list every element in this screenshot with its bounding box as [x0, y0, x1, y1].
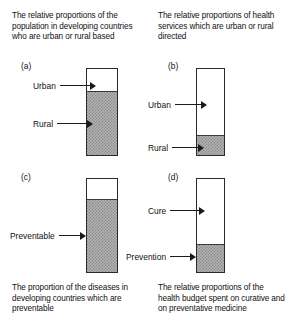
arrow-right-icon: [190, 253, 196, 261]
arrow-right-icon: [201, 101, 207, 109]
pointer-label-urban-a: Urban: [33, 80, 96, 91]
pointer-text: Rural: [33, 119, 53, 129]
pointer-text: Rural: [148, 143, 168, 153]
panel-letter-a: (a): [21, 61, 31, 71]
leader-line-icon: [175, 104, 201, 105]
bar-segment-preventable-c: [87, 199, 117, 272]
caption-panel-a: The relative proportions of the populati…: [12, 11, 140, 43]
arrow-right-icon: [90, 82, 96, 90]
caption-panel-b: The relative proportions of health servi…: [158, 11, 286, 43]
bar-segment-prevention-d: [197, 244, 224, 272]
arrow-right-icon: [198, 144, 204, 152]
leader-line-icon: [172, 147, 198, 148]
pointer-text: Urban: [148, 100, 171, 110]
leader-line-icon: [170, 210, 199, 211]
pointer-text: Prevention: [126, 252, 166, 262]
pointer-label-rural-a: Rural: [33, 118, 93, 129]
leader-line-icon: [59, 235, 80, 236]
caption-panel-d: The relative proportions of the health b…: [158, 283, 286, 315]
bar-panel-c: [86, 178, 118, 273]
pointer-label-urban-b: Urban: [148, 99, 207, 110]
panel-letter-b: (b): [168, 61, 178, 71]
panel-letter-d: (d): [168, 172, 178, 182]
pointer-label-rural-b: Rural: [148, 142, 204, 153]
arrow-right-icon: [199, 207, 205, 215]
leader-line-icon: [60, 85, 90, 86]
leader-line-icon: [57, 123, 87, 124]
stacked-bar-figure: The relative proportions of the populati…: [0, 0, 290, 333]
pointer-text: Cure: [148, 206, 166, 216]
panel-letter-c: (c): [21, 172, 31, 182]
leader-line-icon: [170, 256, 190, 257]
pointer-text: Preventable: [10, 231, 55, 241]
arrow-right-icon: [87, 120, 93, 128]
arrow-right-icon: [80, 232, 86, 240]
pointer-text: Urban: [33, 81, 56, 91]
bar-segment-nonpreventable-c: [87, 179, 117, 200]
pointer-label-cure-d: Cure: [148, 205, 205, 216]
bar-panel-d: [196, 178, 225, 273]
pointer-label-preventable-c: Preventable: [10, 230, 86, 241]
pointer-label-prevention-d: Prevention: [126, 251, 196, 262]
caption-panel-c: The proportion of the diseases in develo…: [12, 283, 140, 315]
